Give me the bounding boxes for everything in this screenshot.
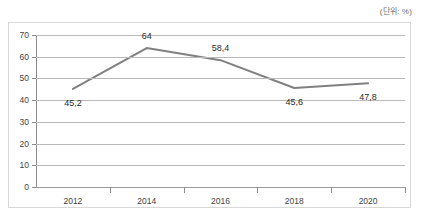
y-axis-label: 0	[24, 182, 29, 192]
data-point-label: 47,8	[359, 92, 377, 102]
gridline	[36, 165, 405, 166]
data-point-label: 58,4	[212, 43, 230, 53]
y-axis-label: 30	[20, 117, 29, 127]
gridline	[36, 35, 405, 36]
y-axis-tick	[32, 57, 36, 58]
x-axis-label: 2012	[63, 196, 82, 206]
data-point-label: 45,2	[64, 98, 82, 108]
gridline	[36, 187, 405, 188]
data-point-label: 45,6	[286, 97, 304, 107]
unit-note: (단위: %)	[380, 5, 412, 16]
y-axis-tick	[32, 100, 36, 101]
x-axis-label: 2014	[137, 196, 156, 206]
x-axis-tick	[331, 187, 332, 193]
gridline	[36, 57, 405, 58]
y-axis-label: 10	[20, 160, 29, 170]
x-axis-tick	[257, 187, 258, 193]
y-axis-label: 20	[20, 139, 29, 149]
plot-area: 0102030405060702012201420162018202045,26…	[36, 35, 405, 187]
x-axis-tick	[405, 187, 406, 193]
data-point-label: 64	[142, 31, 152, 41]
gridline	[36, 122, 405, 123]
y-axis-label: 40	[20, 95, 29, 105]
series-line	[73, 48, 368, 89]
chart-frame: 0102030405060702012201420162018202045,26…	[8, 22, 411, 208]
chart-screenshot: (단위: %) 01020304050607020122014201620182…	[0, 0, 422, 223]
y-axis-tick	[32, 165, 36, 166]
y-axis-tick	[32, 144, 36, 145]
x-axis-tick	[184, 187, 185, 193]
y-axis-label: 50	[20, 73, 29, 83]
y-axis-tick	[32, 35, 36, 36]
y-axis-label: 60	[20, 52, 29, 62]
y-axis-tick	[32, 78, 36, 79]
x-axis-label: 2020	[359, 196, 378, 206]
y-axis-tick	[32, 122, 36, 123]
gridline	[36, 144, 405, 145]
line-series	[36, 35, 405, 187]
gridline	[36, 100, 405, 101]
x-axis-label: 2018	[285, 196, 304, 206]
gridline	[36, 78, 405, 79]
x-axis-tick	[110, 187, 111, 193]
x-axis-label: 2016	[211, 196, 230, 206]
y-axis-tick	[32, 187, 36, 188]
y-axis-label: 70	[20, 30, 29, 40]
